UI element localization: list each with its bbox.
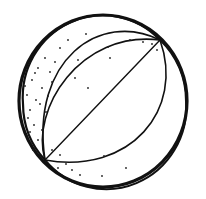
seam-center [45, 40, 160, 160]
beach-ball-drawing: beach ball line drawing [0, 0, 206, 199]
beach-ball-icon [0, 0, 206, 199]
seam-left-outer [43, 31, 160, 160]
seam-right [45, 40, 166, 162]
seam-left-inner [42, 39, 160, 160]
